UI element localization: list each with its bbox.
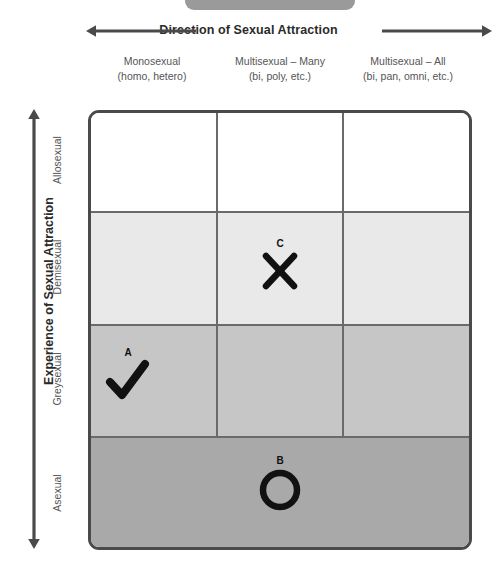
column-headers: Monosexual (homo, hetero) Multisexual – … <box>88 54 472 94</box>
arrow-up-down-icon <box>26 108 42 550</box>
mark-c-letter: C <box>276 239 283 249</box>
column-header-line1: Monosexual <box>88 54 216 69</box>
mark-b-letter: B <box>276 456 283 466</box>
circle-icon <box>257 467 303 516</box>
cross-icon <box>259 250 301 295</box>
cell-allosexual-monosexual[interactable] <box>91 113 218 211</box>
mark-a: A <box>105 348 151 404</box>
cell-greysexual-multisexual-many[interactable] <box>218 326 345 436</box>
cell-asexual-all-columns[interactable]: B <box>91 438 469 547</box>
row-label-asexual: Asexual <box>51 433 63 553</box>
matrix-row-greysexual: A <box>91 326 469 438</box>
cell-demisexual-multisexual-all[interactable] <box>344 213 469 324</box>
cell-allosexual-multisexual-all[interactable] <box>344 113 469 211</box>
matrix-row-allosexual <box>91 113 469 213</box>
arrow-left-icon <box>84 24 196 38</box>
mark-b: B <box>91 456 469 516</box>
cell-greysexual-monosexual[interactable]: A <box>91 326 218 436</box>
row-label-greysexual: Greysexual <box>51 319 63 439</box>
row-label-demisexual: Demisexual <box>51 207 63 327</box>
column-header-line1: Multisexual – All <box>344 54 472 69</box>
column-header-multisexual-many: Multisexual – Many (bi, poly, etc.) <box>216 54 344 94</box>
mark-a-letter: A <box>124 348 131 358</box>
checkmark-icon <box>105 359 151 404</box>
top-pill-decoration <box>185 0 355 10</box>
matrix-row-demisexual: C <box>91 213 469 326</box>
column-header-line1: Multisexual – Many <box>216 54 344 69</box>
mark-c: C <box>218 239 343 295</box>
matrix-row-asexual: B <box>91 438 469 547</box>
cell-demisexual-multisexual-many[interactable]: C <box>218 213 345 324</box>
arrow-right-icon <box>382 24 494 38</box>
cell-demisexual-monosexual[interactable] <box>91 213 218 324</box>
cell-greysexual-multisexual-all[interactable] <box>344 326 469 436</box>
cell-allosexual-multisexual-many[interactable] <box>218 113 345 211</box>
row-label-allosexual: Allosexual <box>51 100 63 220</box>
column-header-line2: (homo, hetero) <box>88 69 216 84</box>
diagram-canvas: Direction of Sexual Attraction Monosexua… <box>0 0 497 575</box>
column-header-monosexual: Monosexual (homo, hetero) <box>88 54 216 94</box>
column-header-line2: (bi, poly, etc.) <box>216 69 344 84</box>
column-header-multisexual-all: Multisexual – All (bi, pan, omni, etc.) <box>344 54 472 94</box>
column-header-line2: (bi, pan, omni, etc.) <box>344 69 472 84</box>
attraction-matrix: C A <box>88 110 472 550</box>
